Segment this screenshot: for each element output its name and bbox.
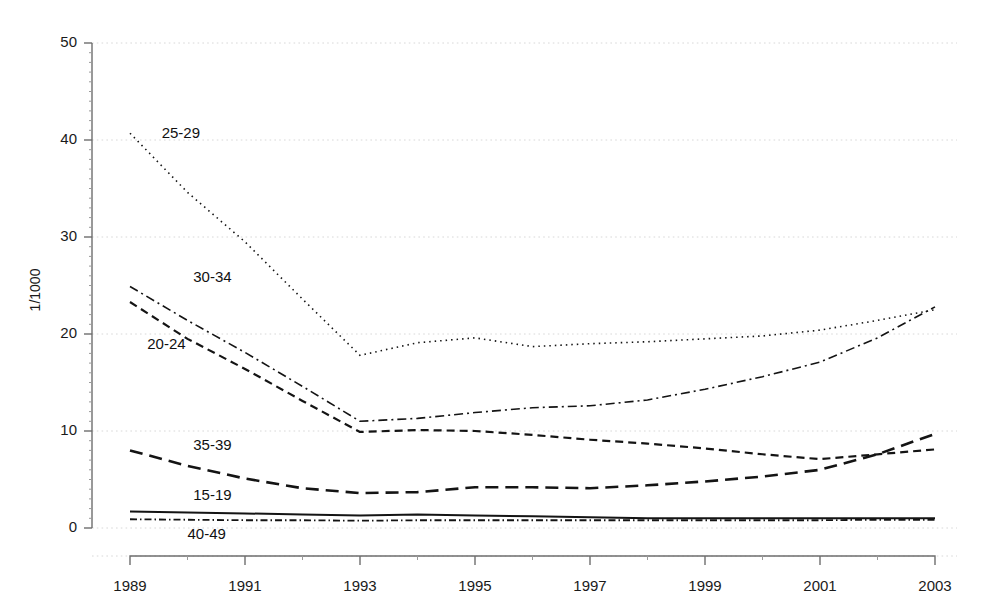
series-line-20-24 [130, 302, 935, 459]
gridlines [92, 43, 957, 556]
x-tick-labels: 19891991199319951997199920012003 [113, 577, 951, 594]
x-tick-label-1989: 1989 [113, 577, 146, 594]
series-inline-labels: 25-2930-3420-2435-3915-1940-49 [147, 124, 231, 542]
y-tick-label-30: 30 [60, 227, 77, 244]
x-tick-label-1997: 1997 [573, 577, 606, 594]
x-tick-label-1993: 1993 [343, 577, 376, 594]
x-tick-label-1991: 1991 [228, 577, 261, 594]
series-line-25-29 [130, 133, 935, 355]
series-label-40-49: 40-49 [188, 525, 226, 542]
chart-canvas: 01020304050 1/1000 198919911993199519971… [0, 0, 989, 609]
series-label-30-34: 30-34 [193, 268, 231, 285]
x-tick-label-1999: 1999 [688, 577, 721, 594]
y-tick-label-20: 20 [60, 324, 77, 341]
data-series-group [130, 133, 935, 521]
line-chart: 01020304050 1/1000 198919911993199519971… [0, 0, 989, 609]
x-tick-label-2003: 2003 [918, 577, 951, 594]
series-line-15-19 [130, 512, 935, 519]
series-label-15-19: 15-19 [193, 486, 231, 503]
series-label-25-29: 25-29 [162, 124, 200, 141]
x-axis [130, 556, 935, 565]
series-line-30-34 [130, 286, 935, 421]
y-tick-label-0: 0 [69, 518, 77, 535]
x-tick-label-2001: 2001 [803, 577, 836, 594]
y-axis [84, 43, 92, 528]
y-tick-label-50: 50 [60, 33, 77, 50]
y-tick-label-10: 10 [60, 421, 77, 438]
y-tick-labels: 01020304050 [60, 33, 77, 535]
series-label-20-24: 20-24 [147, 335, 185, 352]
series-label-35-39: 35-39 [193, 436, 231, 453]
x-tick-label-1995: 1995 [458, 577, 491, 594]
series-line-40-49 [130, 519, 935, 520]
series-line-35-39 [130, 434, 935, 493]
y-axis-label: 1/1000 [27, 268, 43, 311]
y-tick-label-40: 40 [60, 130, 77, 147]
